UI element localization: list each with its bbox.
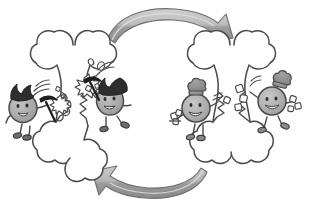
osteoblast-1-eye-left <box>190 103 193 107</box>
osteoblast-2-eye-right <box>275 97 278 101</box>
osteoblast-1-eye-right <box>199 103 202 107</box>
bone-remodeling-illustration: Bone Remodeling Cycle <box>0 0 317 219</box>
osteoblast-2-body <box>258 87 286 115</box>
osteoclast-1-eye-right <box>26 104 29 108</box>
carried-block-2c <box>288 106 294 112</box>
osteoclast-2-eye-right <box>113 97 116 101</box>
osteoblast-1-foot-right <box>197 135 206 141</box>
carried-block-2a <box>289 95 296 102</box>
illustration-canvas <box>0 0 317 219</box>
osteoblast-2-eye-left <box>266 97 269 101</box>
osteoclast-1-eye-left <box>17 104 20 108</box>
osteoclast-1-foot-right <box>23 134 32 140</box>
osteoclast-2-eye-left <box>104 97 107 101</box>
debris-5 <box>55 86 60 91</box>
carried-block-1b <box>175 109 182 116</box>
osteoblast-1-body <box>182 94 210 122</box>
carried-block-2b <box>295 103 302 110</box>
new-block-3 <box>235 104 242 111</box>
carried-block-1c <box>173 119 179 125</box>
new-block-1 <box>235 84 244 93</box>
new-block-2 <box>239 94 247 102</box>
